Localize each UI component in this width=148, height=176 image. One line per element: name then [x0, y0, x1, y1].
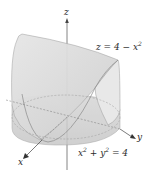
y-axis — [120, 129, 132, 137]
x-axis-label: x — [18, 158, 23, 167]
surface-equation: z = 4 − x2 — [96, 41, 142, 52]
y-axis-arrow-icon — [130, 134, 136, 139]
z-axis-arrow-icon — [65, 18, 69, 23]
cylinder-equation: x2 + y2 = 4 — [78, 147, 128, 158]
z-axis-label: z — [64, 8, 69, 17]
y-axis-label: y — [137, 133, 142, 142]
